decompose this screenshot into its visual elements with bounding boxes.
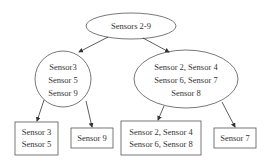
leaf-4-label: Sensor 7 [214,132,256,144]
right-node-label: Sensor 2, Sensor 4 Sensor 6, Sensor 7 Se… [134,61,238,100]
leaf-3-label: Sensor 2, Sensor 4 Sensor 6, Sensor 8 [121,126,201,150]
edge-left-leaf1 [37,100,44,121]
left-node-line: Sensor3 [35,61,91,74]
leaf-line: Sensor 6, Sensor 8 [121,138,201,150]
left-node-line: Sensor 9 [35,87,91,100]
edge-root-right [143,38,169,52]
root-label-text: Sensors 2-9 [111,21,151,31]
edge-left-leaf2 [86,101,92,127]
leaf-line: Sensor 2, Sensor 4 [121,126,201,138]
left-node-line: Sensor 5 [35,74,91,87]
left-node-label: Sensor3 Sensor 5 Sensor 9 [35,61,91,100]
leaf-line: Sensor 5 [15,138,58,150]
right-node-line: Sensor 8 [134,87,238,100]
leaf-2-label: Sensor 9 [71,132,113,144]
edge-right-leaf3 [158,106,164,120]
leaf-line: Sensor 7 [214,132,256,144]
edge-right-leaf4 [222,102,235,127]
leaf-1-label: Sensor 3 Sensor 5 [15,126,58,150]
root-node-label: Sensors 2-9 [86,20,176,32]
edge-root-left [79,37,108,52]
right-node-line: Sensor 6, Sensor 7 [134,74,238,87]
leaf-line: Sensor 9 [71,132,113,144]
right-node-line: Sensor 2, Sensor 4 [134,61,238,74]
leaf-line: Sensor 3 [15,126,58,138]
